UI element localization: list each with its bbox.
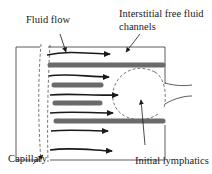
label-initial-lymphatics: Initial lymphatics xyxy=(135,155,209,166)
label-interstitial-channels-line1: Interstitial free fluid xyxy=(119,8,204,19)
diagram-graphic xyxy=(0,0,212,174)
label-fluid-flow: Fluid flow xyxy=(26,14,70,25)
label-interstitial-channels-line2: channels xyxy=(119,21,156,32)
label-capillary: Capillary xyxy=(8,153,47,164)
diagram-canvas: Fluid flow Interstitial free fluid chann… xyxy=(0,0,212,174)
initial-lymphatic-vessel xyxy=(113,68,192,119)
capillary-boundary xyxy=(39,44,50,162)
